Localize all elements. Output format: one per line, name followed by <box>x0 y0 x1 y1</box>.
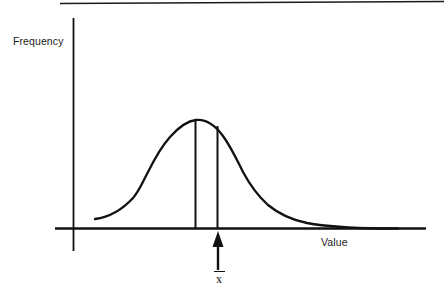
distribution-diagram <box>0 0 445 308</box>
mean-symbol: x <box>211 271 227 285</box>
mean-symbol-letter: x <box>211 273 227 285</box>
mean-arrow <box>213 231 224 270</box>
distribution-curve <box>95 120 398 229</box>
x-axis-label: Value <box>321 236 348 248</box>
top-rule <box>60 2 444 4</box>
y-axis-label: Frequency <box>13 35 64 47</box>
figure-container: Frequency Value x <box>0 0 445 308</box>
mean-arrow-head <box>213 231 224 247</box>
